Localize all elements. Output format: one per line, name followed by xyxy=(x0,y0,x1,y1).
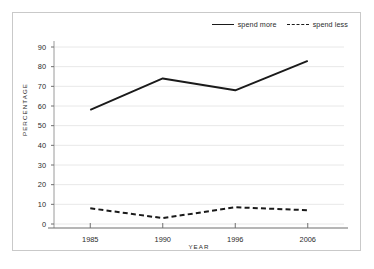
y-axis-tick-label: 20 xyxy=(28,180,46,189)
series-line-spend-less xyxy=(90,207,308,218)
y-axis-tick-label: 90 xyxy=(28,43,46,52)
x-axis-tick-label: 1985 xyxy=(70,235,110,244)
series-line-spend-more xyxy=(90,61,308,110)
y-axis-tick-label: 40 xyxy=(28,141,46,150)
x-axis-tick-label: 2006 xyxy=(288,235,328,244)
plot-canvas xyxy=(0,0,374,269)
y-axis-tick-label: 10 xyxy=(28,200,46,209)
x-axis-tick-label: 1996 xyxy=(215,235,255,244)
y-axis-tick-label: 80 xyxy=(28,62,46,71)
y-axis-tick-label: 70 xyxy=(28,82,46,91)
y-axis-tick-label: 30 xyxy=(28,161,46,170)
plot-area xyxy=(0,0,374,269)
y-axis-tick-label: 0 xyxy=(28,220,46,229)
chart-figure: spend more spend less PERCENTAGE YEAR 01… xyxy=(0,0,374,269)
y-axis-tick-label: 50 xyxy=(28,121,46,130)
x-axis-tick-label: 1990 xyxy=(143,235,183,244)
y-axis-tick-label: 60 xyxy=(28,102,46,111)
